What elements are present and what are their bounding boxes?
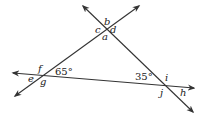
label-i: i (165, 72, 168, 83)
angle-35: 35° (135, 71, 153, 82)
label-c: c (95, 24, 101, 35)
label-e: e (28, 73, 34, 84)
label-f: f (37, 63, 44, 74)
label-h: h (180, 87, 186, 98)
label-a: a (102, 31, 108, 42)
label-g: g (40, 76, 46, 87)
angle-65: 65° (55, 66, 73, 77)
label-j: j (158, 87, 163, 98)
label-d: d (110, 24, 116, 35)
line-falling (83, 6, 193, 112)
angle-diagram: b c d a f e g 65° 35° i j h (0, 0, 202, 124)
